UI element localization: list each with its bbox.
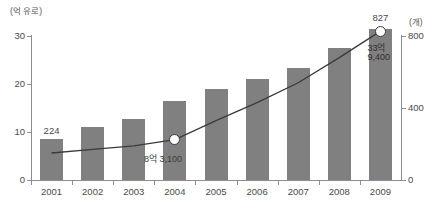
data-label-2001: 224 [32, 125, 72, 136]
x-tick-label-2007: 2007 [278, 186, 318, 197]
x-tick-label-2003: 2003 [114, 186, 154, 197]
data-label-2009: 827 [360, 12, 400, 23]
annotation-2004-0: 8억 3,100 [144, 152, 182, 165]
chart-canvas: (억 유로) (개) 0 10 20 30 0 400 800 20012002… [0, 0, 446, 208]
x-tick-label-2009: 2009 [360, 186, 400, 197]
x-tick-label-2008: 2008 [319, 186, 359, 197]
line-marker-2009 [375, 26, 386, 37]
x-tick-label-2001: 2001 [32, 186, 72, 197]
annotation-2009-2: 9,400 [367, 52, 390, 62]
x-tick-label-2004: 2004 [155, 186, 195, 197]
x-tick-label-2005: 2005 [196, 186, 236, 197]
x-tick-label-2002: 2002 [73, 186, 113, 197]
x-tick-label-2006: 2006 [237, 186, 277, 197]
